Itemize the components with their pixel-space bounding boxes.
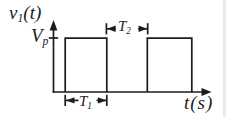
t1-left-arrowhead	[66, 97, 75, 103]
t1-right-arrowhead	[98, 97, 107, 103]
y-axis-label: v1(t)	[9, 3, 41, 22]
y-axis-arrowhead	[50, 20, 58, 31]
t2-left-arrowhead	[107, 26, 115, 32]
x-axis-label: t(s)	[184, 93, 213, 112]
amplitude-label: Vp	[31, 26, 49, 45]
pulse-gap-label: T2	[118, 19, 131, 34]
pulse-1	[65, 38, 107, 92]
t2-right-arrowhead	[139, 26, 147, 32]
pulse-width-label: T1	[79, 94, 92, 109]
pulse-2	[147, 38, 192, 92]
pulse-train-figure: v1(t) Vp T2 T1 t(s)	[0, 0, 226, 117]
scan-edge-artifact	[223, 0, 226, 117]
